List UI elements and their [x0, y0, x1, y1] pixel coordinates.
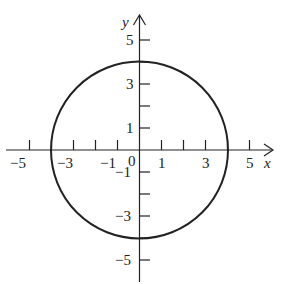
circle-graph: −5 −3 −1 0 1 3 5 x 5 3 1 −1 −3 −5 y [0, 0, 288, 284]
x-tick-label: 1 [158, 155, 166, 171]
y-axis-label: y [120, 14, 129, 30]
x-tick-label: −1 [100, 155, 116, 171]
y-tick-label: −1 [115, 164, 131, 180]
x-axis-label: x [263, 155, 271, 171]
y-tick-label: −3 [115, 208, 131, 224]
x-tick-label: 3 [202, 155, 210, 171]
x-tick-label: −5 [10, 155, 26, 171]
y-tick-label: −5 [115, 252, 131, 268]
x-tick-label: 5 [246, 155, 254, 171]
y-tick-label: 3 [126, 76, 134, 92]
y-tick-label: 5 [126, 32, 134, 48]
x-tick-label: −3 [57, 155, 73, 171]
y-tick-label: 1 [126, 120, 134, 136]
